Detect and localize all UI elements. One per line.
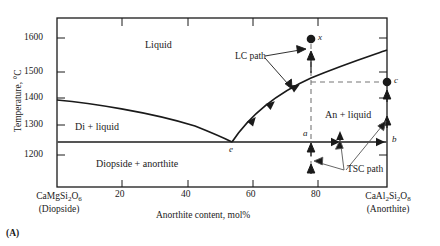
panel-label: (A)	[6, 229, 19, 239]
y-axis-title: Temperature, °C	[14, 51, 24, 151]
annotation-tsc-path: TSC path	[347, 165, 383, 175]
isopleth-up-arrow	[307, 51, 315, 73]
left-endmember-label: CaMgSi2O6 (Diopside)	[13, 192, 105, 214]
left-endmember-name: (Diopside)	[13, 205, 105, 215]
x-tick-label-80: 80	[311, 190, 321, 200]
tsc-isopleth-arrows	[307, 143, 315, 174]
y-tick-label-1600: 1600	[24, 33, 43, 43]
annotation-lc-path: LC path	[235, 52, 266, 62]
left-endmember-formula: CaMgSi2O6	[13, 192, 105, 203]
region-label-diopside-anorthite: Diopside + anorthite	[96, 159, 178, 169]
point-label-c: c	[394, 76, 398, 85]
y-tick-label-1200: 1200	[24, 150, 43, 160]
point-c-marker	[383, 78, 392, 87]
x-tick-label-60: 60	[246, 190, 256, 200]
region-label-liquid: Liquid	[145, 40, 172, 50]
x-axis-ticks-top	[122, 18, 318, 26]
point-label-x: x	[318, 33, 322, 42]
x-tick-label-40: 40	[181, 190, 191, 200]
tsc-path-leaders	[314, 121, 386, 170]
right-endmember-name: (Anorthite)	[341, 205, 435, 215]
right-endmember-formula: CaAl2Si2O8	[341, 192, 435, 203]
phase-diagram-figure: 1600 1500 1400 1300 1200 20 40 60 80 Liq…	[0, 0, 440, 246]
x-axis-ticks-bottom	[122, 180, 318, 187]
point-x-marker	[307, 35, 316, 44]
y-tick-label-1400: 1400	[24, 93, 43, 103]
anorthite-liquidus-curve	[232, 50, 387, 142]
x-axis-title: Anorthite content, mol%	[156, 211, 250, 221]
lc-path-arrowheads	[247, 81, 302, 127]
point-label-e: e	[229, 145, 233, 154]
region-label-an-liquid: An + liquid	[325, 110, 371, 120]
y-tick-label-1500: 1500	[24, 67, 43, 77]
y-tick-label-1300: 1300	[24, 120, 43, 130]
tsc-anliquid-arrow	[336, 131, 344, 140]
x-tick-label-20: 20	[115, 190, 125, 200]
region-label-di-liquid: Di + liquid	[75, 122, 119, 132]
y-axis-ticks	[57, 38, 65, 155]
right-endmember-label: CaAl2Si2O8 (Anorthite)	[341, 192, 435, 214]
point-label-a: a	[303, 129, 308, 138]
point-label-b: b	[392, 135, 397, 144]
